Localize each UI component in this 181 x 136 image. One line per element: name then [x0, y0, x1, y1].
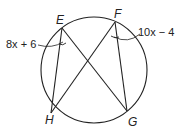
label-H: H: [45, 113, 54, 127]
label-G: G: [128, 115, 137, 129]
angle-E-expression: 8x + 6: [6, 38, 36, 50]
inscribed-angles-diagram: E F H G 8x + 6 10x − 4: [0, 0, 181, 136]
label-F: F: [114, 7, 122, 21]
label-E: E: [56, 13, 65, 27]
leader-F: [114, 34, 140, 40]
angle-F-expression: 10x − 4: [138, 26, 174, 38]
